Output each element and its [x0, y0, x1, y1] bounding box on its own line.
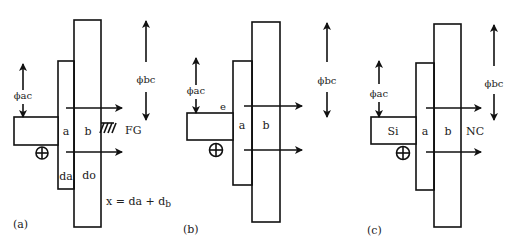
- panel-a: ϕac ϕbc a b FG da do x = da + db (a): [13, 20, 171, 231]
- gate-box: [187, 113, 233, 140]
- region-a-label: a: [422, 125, 429, 138]
- region-b-label: b: [444, 125, 451, 138]
- caption-a: (a): [13, 218, 28, 231]
- phi-bc-label: ϕbc: [485, 78, 504, 89]
- band-diagram-figure: ϕac ϕbc a b FG da do x = da + db (a): [0, 0, 514, 246]
- positive-charge-icon: [210, 144, 223, 157]
- positive-charge-icon: [36, 147, 48, 159]
- nc-label: NC: [466, 125, 484, 138]
- region-a-label: a: [63, 125, 70, 138]
- phi-bc-label: ϕbc: [137, 74, 156, 85]
- region-a-label: a: [239, 119, 246, 132]
- phi-bc-label: ϕbc: [318, 75, 337, 86]
- positive-charge-icon: [397, 147, 410, 160]
- ground-hatch-icon: [100, 123, 116, 133]
- da-label: da: [59, 170, 73, 183]
- e-label: e: [220, 101, 226, 112]
- fg-label: FG: [125, 124, 141, 137]
- phi-ac-label: ϕac: [370, 88, 389, 99]
- caption-c: (c): [367, 224, 382, 237]
- equation-label: x = da + db: [106, 195, 171, 209]
- panel-c: ϕac ϕbc Si a b NC (c): [367, 24, 504, 237]
- si-label: Si: [387, 125, 399, 138]
- panel-b: ϕac e ϕbc a b (b): [183, 22, 337, 236]
- layer-b-rect: [74, 20, 101, 227]
- phi-ac-label: ϕac: [14, 90, 33, 101]
- caption-b: (b): [183, 223, 199, 236]
- gate-box: [14, 117, 58, 145]
- do-label: do: [82, 169, 96, 182]
- phi-ac-label: ϕac: [187, 85, 206, 96]
- region-b-label: b: [262, 119, 269, 132]
- region-b-label: b: [84, 125, 91, 138]
